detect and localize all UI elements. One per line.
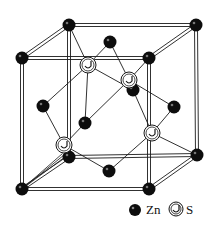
zn-atom xyxy=(191,149,204,162)
cube-edge xyxy=(21,58,24,189)
bond xyxy=(22,157,66,190)
zn-atom xyxy=(190,19,203,32)
zn-atom xyxy=(79,117,92,130)
cube-edge xyxy=(148,154,198,190)
bond xyxy=(85,80,129,123)
s-atom xyxy=(144,125,160,141)
legend-s-label: S xyxy=(186,202,193,217)
s-atom xyxy=(121,72,137,88)
legend-zn-label: Zn xyxy=(146,202,161,217)
legend-zn-icon xyxy=(129,204,141,216)
zn-atom xyxy=(16,183,29,196)
cube-edge xyxy=(69,154,197,159)
cube-edge xyxy=(195,25,199,155)
zn-atom xyxy=(143,52,156,65)
cube-edge xyxy=(21,24,70,59)
zn-atom xyxy=(168,101,181,114)
legend: Zn S xyxy=(129,202,193,217)
zn-atom xyxy=(16,52,29,65)
bond xyxy=(43,65,88,106)
cube-edge xyxy=(22,188,149,191)
bond xyxy=(109,133,152,171)
zn-atom xyxy=(37,100,50,113)
cube-edge xyxy=(68,25,71,157)
zn-atom xyxy=(63,19,76,32)
zn-atom xyxy=(103,165,116,178)
cube-edge xyxy=(21,156,70,190)
legend-s-icon xyxy=(169,202,183,216)
zinc-blende-unit-cell-diagram: Zn S xyxy=(0,0,218,233)
s-atom xyxy=(56,137,72,153)
cube-edge xyxy=(69,24,196,27)
zn-atom xyxy=(104,36,117,49)
zn-atom xyxy=(143,183,156,196)
bond xyxy=(85,65,88,123)
cube-edge xyxy=(148,24,197,59)
s-atom xyxy=(80,57,96,73)
